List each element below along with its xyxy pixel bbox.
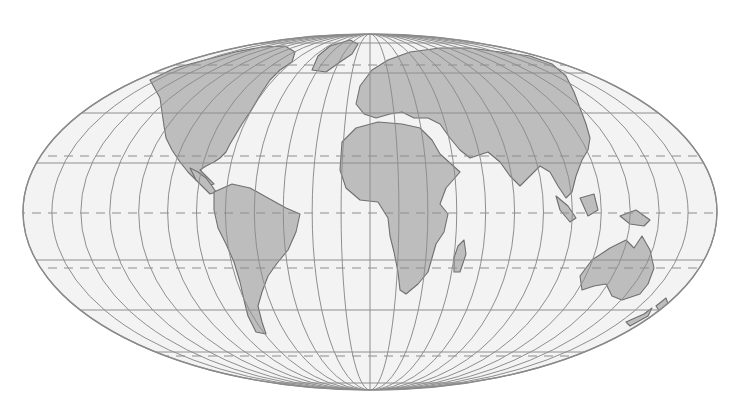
world-map bbox=[0, 0, 748, 419]
